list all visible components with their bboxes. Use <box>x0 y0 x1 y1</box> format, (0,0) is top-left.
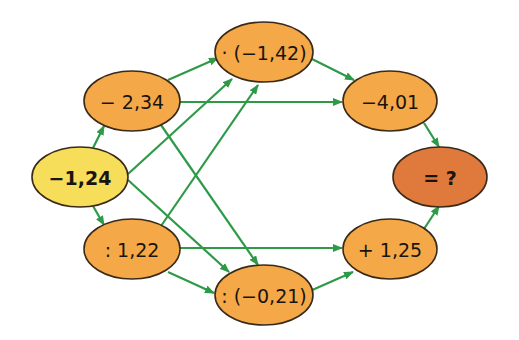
arrow-r1-to-result <box>424 123 439 147</box>
arrow-start-to-div <box>93 206 104 225</box>
diagram-canvas: −1,24 − 2,34 · (−1,42) −4,01 = ? : 1,22 <box>0 0 519 340</box>
arrow-div-to-div2 <box>168 272 214 293</box>
node-subtract: − 2,34 <box>84 71 180 131</box>
arrow-sub-to-mul <box>168 58 218 80</box>
nodes-layer: −1,24 − 2,34 · (−1,42) −4,01 = ? : 1,22 <box>32 22 487 325</box>
arrow-add-to-result <box>424 206 439 229</box>
start-value-label: −1,24 <box>49 167 112 189</box>
arrow-div2-to-add <box>310 272 353 291</box>
intermediate-value-label: −4,01 <box>361 91 419 113</box>
node-add: + 1,25 <box>343 219 437 279</box>
divide-operation-label: : 1,22 <box>105 239 160 261</box>
node-result: = ? <box>393 147 487 207</box>
node-start: −1,24 <box>32 147 128 207</box>
arrow-start-to-sub <box>93 126 104 148</box>
subtract-operation-label: − 2,34 <box>100 91 164 113</box>
multiply-operation-label: · (−1,42) <box>221 42 306 64</box>
arrow-mul-to-r1 <box>310 58 354 80</box>
node-divide-negative: : (−0,21) <box>215 265 313 325</box>
node-intermediate-result: −4,01 <box>343 71 437 131</box>
divide-negative-operation-label: : (−0,21) <box>221 285 307 307</box>
result-label: = ? <box>423 167 457 189</box>
add-operation-label: + 1,25 <box>358 239 422 261</box>
operation-diagram: −1,24 − 2,34 · (−1,42) −4,01 = ? : 1,22 <box>0 0 519 340</box>
node-divide: : 1,22 <box>84 219 180 279</box>
node-multiply: · (−1,42) <box>215 22 313 82</box>
